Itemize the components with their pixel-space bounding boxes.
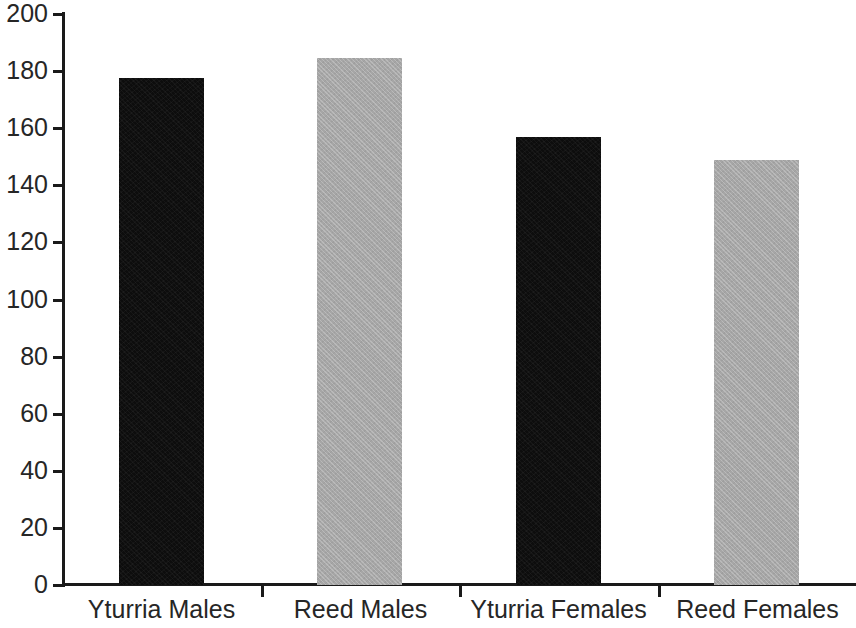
y-axis-tick-label: 80: [20, 344, 48, 369]
y-axis-tick-label: 160: [6, 115, 48, 140]
y-axis-tick: [53, 70, 63, 73]
y-axis-tick-label: 20: [20, 515, 48, 540]
y-axis-tick-label: 120: [6, 229, 48, 254]
y-axis-tick-label: 40: [20, 458, 48, 483]
x-axis-category-label: Yturria Females: [459, 594, 658, 625]
bar-yturria-females[interactable]: [516, 137, 601, 585]
bar-reed-males[interactable]: [317, 58, 402, 585]
y-axis-tick: [53, 241, 63, 244]
y-axis-tick: [53, 584, 63, 587]
y-axis-tick: [53, 299, 63, 302]
y-axis-tick-label: 140: [6, 172, 48, 197]
bar-yturria-males[interactable]: [119, 78, 204, 585]
y-axis-tick-label: 100: [6, 287, 48, 312]
y-axis-tick: [53, 527, 63, 530]
y-axis-tick: [53, 127, 63, 130]
y-axis-tick-label: 0: [34, 572, 48, 597]
y-axis-tick: [53, 356, 63, 359]
y-axis-tick-label: 180: [6, 58, 48, 83]
bar-chart: 020406080100120140160180200 Yturria Male…: [0, 0, 856, 628]
plot-area: 020406080100120140160180200 Yturria Male…: [0, 0, 856, 628]
x-axis-category-label: Yturria Males: [62, 594, 261, 625]
y-axis-tick: [53, 413, 63, 416]
y-axis-tick: [53, 13, 63, 16]
bar-reed-females[interactable]: [714, 160, 799, 585]
y-axis-tick: [53, 184, 63, 187]
y-axis-tick: [53, 470, 63, 473]
x-axis-category-label: Reed Males: [261, 594, 460, 625]
y-axis-tick-label: 200: [6, 1, 48, 26]
x-axis-category-label: Reed Females: [658, 594, 856, 625]
y-axis-tick-label: 60: [20, 401, 48, 426]
